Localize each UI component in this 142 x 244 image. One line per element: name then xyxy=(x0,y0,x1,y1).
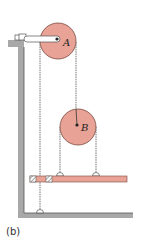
horizontal-bar xyxy=(30,176,127,182)
pulley-b: B xyxy=(60,109,96,145)
bar-hatch-right xyxy=(46,176,52,182)
pulley-a-label: A xyxy=(62,37,70,48)
floor-anchor xyxy=(37,210,44,213)
bar-hatch-left xyxy=(30,176,36,182)
bar-hooks xyxy=(57,173,100,176)
figure-caption: (b) xyxy=(6,226,20,237)
pulley-b-label: B xyxy=(80,122,88,133)
pulley-system-diagram: A B xyxy=(0,0,142,244)
